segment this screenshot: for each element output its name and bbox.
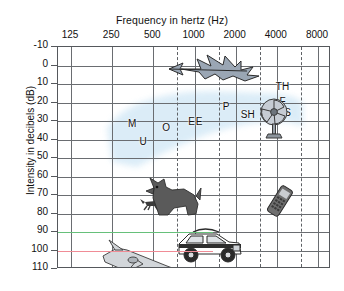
y-tick-label-100db: 100 (18, 243, 48, 254)
vertical-gridline-125 (71, 47, 72, 267)
x-tick-label-1000: 1000 (172, 29, 216, 40)
x-tick-label-2000: 2000 (213, 29, 257, 40)
x-tick-label-500: 500 (130, 29, 174, 40)
y-tick-label-0db: 0 (18, 58, 48, 69)
x-tick-label-125: 125 (48, 29, 92, 40)
green-line-90db (58, 232, 213, 233)
y-tick-label-110db: 110 (18, 261, 48, 272)
y-tick-label-40db: 40 (18, 132, 48, 143)
mobile-phone-icon (264, 185, 298, 227)
y-tick-label--10db: -10 (18, 39, 48, 50)
x-axis-title: Frequency in hertz (Hz) (0, 14, 344, 26)
vertical-gridline-dashed-6000 (301, 47, 302, 267)
x-tick-label-8000: 8000 (295, 29, 339, 40)
airplane-icon (97, 238, 189, 268)
x-tick-label-4000: 4000 (254, 29, 298, 40)
phoneme-m-0: M (128, 117, 136, 128)
phoneme-o-2: O (162, 121, 170, 132)
audiogram-speech-banana-chart: Frequency in hertz (Hz) Intensity in dec… (0, 0, 344, 291)
x-tick-label-250: 250 (89, 29, 133, 40)
fan-icon (257, 97, 291, 145)
barking-dog-icon (144, 174, 202, 224)
y-tick-label-30db: 30 (18, 113, 48, 124)
phoneme-sh-6: SH (241, 108, 255, 119)
bird-icon (167, 52, 263, 90)
phoneme-e-3: E (188, 116, 195, 127)
y-tick-label-90db: 90 (18, 224, 48, 235)
phoneme-e-4: E (196, 116, 203, 127)
vertical-gridline-500 (153, 47, 154, 267)
y-tick-label-70db: 70 (18, 187, 48, 198)
vertical-gridline-8000 (318, 47, 319, 267)
phoneme-p-5: P (223, 101, 230, 112)
y-tick-label-50db: 50 (18, 150, 48, 161)
plot-area: MUOEEPSHTHFS (57, 46, 330, 268)
horizontal-gridline-50db (58, 158, 329, 159)
phoneme-u-1: U (139, 136, 146, 147)
phoneme-th-7: TH (276, 80, 289, 91)
y-tick-110db (51, 268, 57, 269)
y-tick-label-10db: 10 (18, 76, 48, 87)
y-tick-label-60db: 60 (18, 169, 48, 180)
y-tick-label-20db: 20 (18, 95, 48, 106)
vertical-gridline-250 (112, 47, 113, 267)
y-tick-label-80db: 80 (18, 206, 48, 217)
red-line-100db (58, 251, 213, 252)
